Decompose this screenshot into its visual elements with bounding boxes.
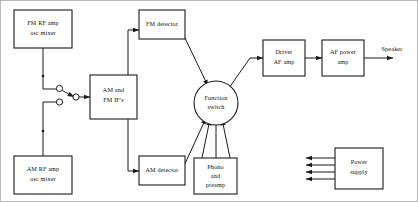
block-am-rf-amp[interactable]: AM RF amp osc mixer (14, 156, 72, 194)
block-fm-rf-amp-line-1: FM RF amp (27, 19, 59, 26)
block-function-switch-line-2: switch (207, 103, 225, 110)
block-power-supply[interactable]: Power supply (335, 148, 383, 189)
block-function-switch-line-1: Function (204, 94, 227, 101)
block-am-detector-label: AM detector (145, 166, 178, 173)
block-phono-preamp[interactable]: Phono and preamp (194, 158, 237, 194)
block-phono-preamp-line-3: preamp (206, 181, 225, 188)
block-am-fm-ifs-line-1: AM and (103, 86, 125, 93)
wire-fm-detector-to-function-switch (183, 34, 208, 86)
block-driver-af-amp-line-1: Driver (275, 48, 292, 55)
wire-phono-to-function-switch-3 (222, 119, 230, 158)
switch-pole-contact[interactable] (73, 94, 79, 100)
block-diagram-canvas: FM RF amp osc mixer AM RF amp osc mixer … (0, 0, 418, 202)
wire-am-rf-to-switch (43, 102, 63, 156)
block-power-supply-line-2: supply (350, 168, 368, 175)
block-driver-af-amp[interactable]: Driver AF amp (263, 40, 305, 76)
block-diagram-svg: FM RF amp osc mixer AM RF amp osc mixer … (0, 0, 418, 202)
block-am-rf-amp-line-1: AM RF amp (27, 165, 60, 172)
wire-fm-rf-to-switch (43, 48, 57, 89)
block-am-fm-ifs[interactable]: AM and FM IF's (90, 75, 137, 119)
block-af-power-amp-line-2: amp (337, 58, 348, 65)
block-am-rf-amp-line-2: osc mixer (30, 175, 56, 182)
block-fm-detector[interactable]: FM detector (139, 10, 185, 39)
block-power-supply-line-1: Power (351, 158, 368, 165)
wire-function-switch-to-driver (229, 58, 263, 88)
block-phono-preamp-line-2: and (211, 172, 221, 179)
block-am-detector[interactable]: AM detector (139, 156, 185, 185)
switch-contact-am[interactable] (56, 99, 62, 105)
block-af-power-amp-line-1: AF power (330, 48, 356, 55)
block-am-fm-ifs-line-2: FM IF's (103, 96, 124, 103)
block-fm-rf-amp-line-2: osc mixer (30, 29, 56, 36)
block-fm-detector-label: FM detector (146, 20, 178, 27)
switch-contact-fm[interactable] (56, 85, 62, 91)
block-af-power-amp[interactable]: AF power amp (322, 40, 364, 76)
wire-if-to-fm-detector (128, 30, 139, 75)
wire-if-to-am-detector (128, 119, 139, 171)
junction-dot-fm (42, 75, 45, 78)
block-fm-rf-amp[interactable]: FM RF amp osc mixer (14, 10, 72, 48)
wire-switch-wiper (63, 91, 75, 98)
block-driver-af-amp-line-2: AF amp (273, 58, 294, 65)
speaker-label: Speaker (382, 45, 403, 52)
block-phono-preamp-line-1: Phono (207, 163, 224, 170)
block-function-switch[interactable]: Function switch (194, 81, 238, 125)
junction-dot-am (42, 130, 45, 133)
